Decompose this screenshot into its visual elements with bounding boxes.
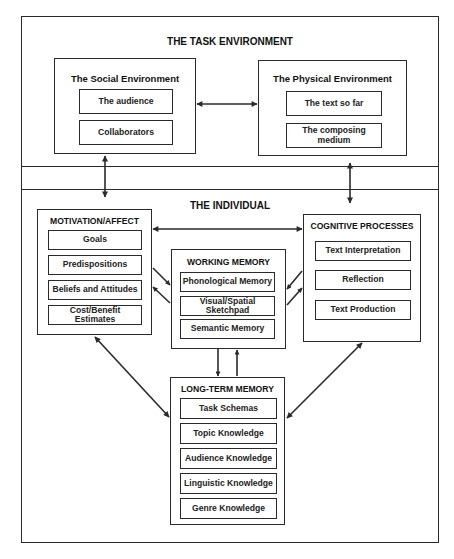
wm-item-phonological: Phonological Memory bbox=[180, 272, 275, 292]
motivation-item-beliefs-attitudes: Beliefs and Attitudes bbox=[48, 280, 142, 300]
long-term-memory-title: LONG-TERM MEMORY bbox=[170, 384, 285, 394]
physical-item-text-so-far: The text so far bbox=[286, 91, 382, 116]
social-item-audience: The audience bbox=[79, 89, 173, 114]
task-environment-title: THE TASK ENVIRONMENT bbox=[21, 36, 439, 47]
social-item-collaborators: Collaborators bbox=[79, 120, 173, 145]
ltm-item-genre-knowledge: Genre Knowledge bbox=[180, 498, 277, 519]
motivation-item-predispositions: Predispositions bbox=[48, 255, 142, 275]
ltm-item-linguistic-knowledge: Linguistic Knowledge bbox=[180, 473, 277, 494]
motivation-affect-title: MOTIVATION/AFFECT bbox=[37, 216, 152, 226]
ltm-item-topic-knowledge: Topic Knowledge bbox=[180, 423, 277, 444]
physical-item-composing-medium: The composing medium bbox=[286, 123, 382, 148]
wm-item-semantic: Semantic Memory bbox=[180, 319, 275, 339]
divider-top bbox=[21, 166, 439, 167]
motivation-item-cost-benefit: Cost/Benefit Estimates bbox=[48, 305, 142, 325]
working-memory-title: WORKING MEMORY bbox=[171, 257, 286, 267]
divider-bottom bbox=[21, 189, 439, 190]
physical-environment-title: The Physical Environment bbox=[258, 73, 407, 84]
cognitive-item-text-interpretation: Text Interpretation bbox=[315, 241, 411, 261]
ltm-item-task-schemas: Task Schemas bbox=[180, 398, 277, 419]
motivation-item-goals: Goals bbox=[48, 230, 142, 250]
wm-item-visual-spatial: Visual/Spatial Sketchpad bbox=[180, 296, 275, 316]
social-environment-title: The Social Environment bbox=[54, 73, 196, 84]
ltm-item-audience-knowledge: Audience Knowledge bbox=[180, 448, 277, 469]
cognitive-item-text-production: Text Production bbox=[315, 300, 411, 320]
cognitive-item-reflection: Reflection bbox=[315, 270, 411, 290]
cognitive-processes-title: COGNITIVE PROCESSES bbox=[303, 221, 421, 231]
